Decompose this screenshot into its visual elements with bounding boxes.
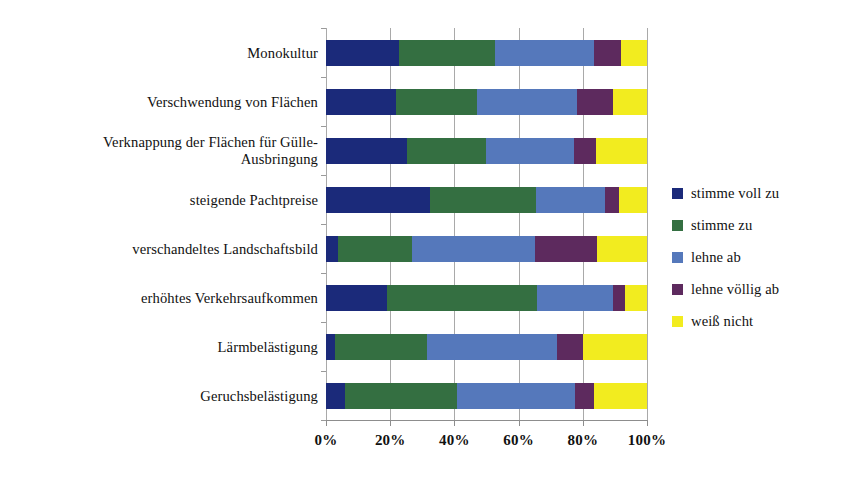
- bar-segment: [338, 236, 412, 262]
- legend-item[interactable]: lehne ab: [672, 241, 840, 273]
- bar-segment: [619, 187, 647, 213]
- bar-segment: [597, 236, 647, 262]
- bar-segment: [326, 383, 345, 409]
- bar-segment: [535, 236, 597, 262]
- bar-segment: [412, 236, 535, 262]
- legend-label: stimme voll zu: [691, 185, 779, 201]
- bar-segment: [536, 187, 605, 213]
- bar-segment: [537, 285, 613, 311]
- bar-row: [326, 334, 647, 360]
- bar-segment: [326, 285, 387, 311]
- bar-segment: [574, 138, 596, 164]
- bar-segment: [477, 89, 577, 115]
- x-axis-tick-labels: 0%20%40%60%80%100%: [326, 432, 647, 458]
- legend-label: stimme zu: [691, 217, 752, 233]
- gridline-20pct: [390, 28, 391, 420]
- bar-segment: [326, 89, 396, 115]
- bar-segment: [326, 40, 399, 66]
- bar-segment: [594, 383, 647, 409]
- bar-segment: [577, 89, 613, 115]
- bar-segment: [596, 138, 647, 164]
- bar-segment: [613, 285, 625, 311]
- legend-item[interactable]: weiß nicht: [672, 305, 840, 337]
- gridline-100pct: [647, 28, 648, 420]
- bar-row: [326, 285, 647, 311]
- x-tick-40pct: [454, 420, 455, 426]
- bar-segment: [326, 187, 430, 213]
- x-tick-60pct: [519, 420, 520, 426]
- category-tick: [321, 371, 326, 372]
- category-tick: [321, 322, 326, 323]
- bar-row: [326, 89, 647, 115]
- category-tick: [321, 126, 326, 127]
- bar-segment: [613, 89, 647, 115]
- bar-row: [326, 138, 647, 164]
- x-tick-100pct: [647, 420, 648, 426]
- bar-segment: [345, 383, 457, 409]
- bar-segment: [326, 334, 335, 360]
- bar-segment: [399, 40, 495, 66]
- category-label: Verknappung der Flächen für Gülle- Ausbr…: [8, 134, 318, 168]
- category-label: Monokultur: [8, 45, 318, 62]
- bar-row: [326, 187, 647, 213]
- bar-segment: [621, 40, 647, 66]
- bar-segment: [605, 187, 619, 213]
- gridline-60pct: [519, 28, 520, 420]
- x-tick-label: 20%: [375, 432, 406, 449]
- bar-segment: [326, 236, 338, 262]
- category-axis-labels: MonokulturVerschwendung von FlächenVerkn…: [8, 34, 318, 414]
- bar-segment: [396, 89, 477, 115]
- category-label: verschandeltes Landschaftsbild: [8, 241, 318, 258]
- gridline-0pct: [326, 28, 327, 420]
- category-label: steigende Pachtpreise: [8, 192, 318, 209]
- bar-segment: [625, 285, 647, 311]
- legend-swatch-icon: [672, 284, 683, 295]
- category-label: Geruchsbelästigung: [8, 388, 318, 405]
- category-tick: [321, 273, 326, 274]
- bar-segment: [335, 334, 427, 360]
- legend-item[interactable]: stimme voll zu: [672, 177, 840, 209]
- legend-item[interactable]: lehne völlig ab: [672, 273, 840, 305]
- bar-segment: [387, 285, 537, 311]
- stacked-bar-chart: MonokulturVerschwendung von FlächenVerkn…: [0, 0, 844, 484]
- bar-row: [326, 236, 647, 262]
- plot-area: [326, 28, 647, 420]
- chart-legend: stimme voll zustimme zulehne ablehne völ…: [672, 177, 840, 337]
- bar-segment: [557, 334, 583, 360]
- legend-swatch-icon: [672, 188, 683, 199]
- x-tick-20pct: [390, 420, 391, 426]
- category-label: Lärmbelästigung: [8, 339, 318, 356]
- legend-swatch-icon: [672, 220, 683, 231]
- x-tick-label: 100%: [628, 432, 666, 449]
- gridline-40pct: [454, 28, 455, 420]
- bar-segment: [457, 383, 575, 409]
- x-tick-label: 0%: [315, 432, 338, 449]
- bar-segment: [486, 138, 573, 164]
- bar-segment: [427, 334, 557, 360]
- gridline-80pct: [583, 28, 584, 420]
- legend-swatch-icon: [672, 252, 683, 263]
- bar-segment: [495, 40, 594, 66]
- category-tick: [321, 28, 326, 29]
- category-tick: [321, 224, 326, 225]
- bar-segment: [583, 334, 647, 360]
- x-tick-0pct: [326, 420, 327, 426]
- category-label: Verschwendung von Flächen: [8, 94, 318, 111]
- bar-segment: [430, 187, 536, 213]
- category-tick: [321, 420, 326, 421]
- bar-segment: [407, 138, 487, 164]
- bar-segment: [326, 138, 407, 164]
- category-label: erhöhtes Verkehrsaufkommen: [8, 290, 318, 307]
- bar-segment: [575, 383, 594, 409]
- x-tick-label: 80%: [567, 432, 598, 449]
- bar-row: [326, 40, 647, 66]
- bar-segment: [594, 40, 621, 66]
- legend-label: lehne völlig ab: [691, 281, 779, 297]
- bar-row: [326, 383, 647, 409]
- legend-item[interactable]: stimme zu: [672, 209, 840, 241]
- category-tick: [321, 175, 326, 176]
- x-tick-label: 60%: [503, 432, 534, 449]
- legend-swatch-icon: [672, 316, 683, 327]
- x-axis-line: [326, 420, 647, 421]
- legend-label: lehne ab: [691, 249, 741, 265]
